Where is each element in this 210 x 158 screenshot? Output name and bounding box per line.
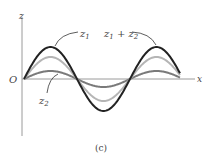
z2-leader xyxy=(47,74,58,93)
z-axis-label: z xyxy=(18,11,24,21)
origin-label: O xyxy=(9,74,17,85)
z1-leader xyxy=(55,32,78,46)
z1-plus-z2-label: z1 + z2 xyxy=(103,28,139,41)
z2-label: z2 xyxy=(38,95,49,108)
wave-superposition-diagram: z x O z1 z1 + z2 z2 (c) xyxy=(0,0,210,158)
figure-caption: (c) xyxy=(95,143,107,153)
z1-label: z1 xyxy=(79,28,90,41)
x-axis-label: x xyxy=(197,74,202,84)
